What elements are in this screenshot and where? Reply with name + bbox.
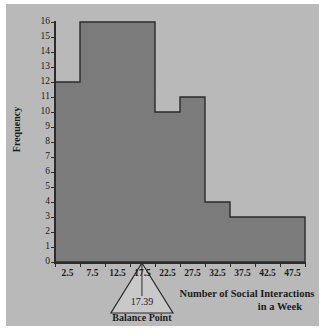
y-tick-label-11: 11 — [34, 92, 50, 102]
y-tick-label-1: 1 — [34, 242, 50, 252]
y-tick-label-15: 15 — [34, 32, 50, 42]
y-tick-mark — [51, 247, 54, 248]
y-tick-label-14: 14 — [34, 47, 50, 57]
x-tick-mark — [280, 263, 281, 267]
y-tick-mark — [51, 22, 54, 23]
y-tick-label-12: 12 — [34, 77, 50, 87]
x-axis-title-line1: Number of Social Interactions — [180, 288, 315, 299]
y-tick-label-3: 3 — [34, 212, 50, 222]
y-axis-line — [54, 21, 56, 263]
y-tick-label-6: 6 — [34, 167, 50, 177]
histogram-figure: 16 15 14 13 12 11 10 9 8 7 6 5 4 3 2 1 0… — [0, 0, 325, 334]
y-tick-mark — [51, 232, 54, 233]
x-axis-title: Number of Social Interactions in a Week — [178, 287, 316, 313]
y-tick-label-8: 8 — [34, 137, 50, 147]
y-tick-label-4: 4 — [34, 197, 50, 207]
y-tick-mark — [51, 172, 54, 173]
y-tick-mark — [51, 157, 54, 158]
y-tick-label-16: 16 — [34, 17, 50, 27]
y-tick-label-0: 0 — [34, 257, 50, 267]
y-tick-label-10: 10 — [34, 107, 50, 117]
x-tick-mark — [105, 263, 106, 267]
y-tick-mark — [51, 82, 54, 83]
x-axis-title-line2: in a Week — [178, 300, 316, 313]
y-tick-label-2: 2 — [34, 227, 50, 237]
y-tick-mark — [51, 262, 54, 263]
x-tick-label-47.5: 47.5 — [278, 268, 308, 279]
y-tick-mark — [51, 97, 54, 98]
x-tick-mark — [80, 263, 81, 267]
y-tick-label-7: 7 — [34, 152, 50, 162]
y-tick-mark — [51, 52, 54, 53]
y-tick-mark — [51, 187, 54, 188]
y-tick-mark — [51, 112, 54, 113]
y-axis-title: Frequency — [11, 90, 22, 170]
x-tick-mark — [305, 263, 306, 267]
x-tick-mark — [155, 263, 156, 267]
x-tick-mark — [180, 263, 181, 267]
y-tick-label-9: 9 — [34, 122, 50, 132]
plot-area: 16 15 14 13 12 11 10 9 8 7 6 5 4 3 2 1 0… — [0, 0, 325, 334]
y-tick-mark — [51, 202, 54, 203]
y-tick-mark — [51, 127, 54, 128]
y-tick-label-13: 13 — [34, 62, 50, 72]
histogram-bar-outline — [55, 22, 305, 262]
y-tick-mark — [51, 217, 54, 218]
y-tick-mark — [51, 142, 54, 143]
x-tick-mark — [255, 263, 256, 267]
y-tick-mark — [51, 67, 54, 68]
x-tick-mark — [205, 263, 206, 267]
y-tick-mark — [51, 37, 54, 38]
x-tick-mark — [55, 263, 56, 267]
y-tick-label-5: 5 — [34, 182, 50, 192]
x-tick-mark — [230, 263, 231, 267]
x-tick-mark — [130, 263, 131, 267]
